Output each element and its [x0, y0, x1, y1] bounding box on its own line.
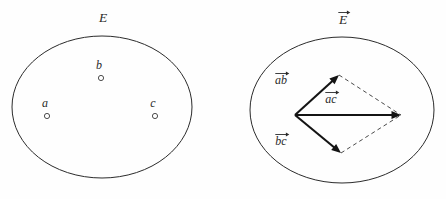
point-label-a: a	[42, 96, 48, 110]
dashed-edge-ab-to-ac	[339, 75, 401, 115]
vector-ab-label-group: ab	[275, 71, 289, 87]
vector-label-bc: bc	[275, 134, 287, 148]
vector-bc-shaft	[295, 115, 336, 149]
point-marker-b	[98, 75, 103, 80]
vector-bc-label-group: bc	[275, 132, 289, 148]
vector-ac: ac	[295, 90, 401, 119]
point-marker-a	[44, 113, 49, 118]
vector-set-label-E: E	[338, 12, 348, 27]
point-label-b: b	[96, 58, 102, 72]
set-label-E: E	[98, 10, 108, 25]
point-marker-c	[152, 113, 157, 118]
set-diagram-panel: E a b c	[12, 10, 192, 178]
vector-set-label-group: E	[338, 10, 350, 27]
vector-set-ellipse-outline	[250, 37, 434, 183]
vector-diagram-panel: E ab ac	[250, 10, 434, 183]
set-point-b: b	[96, 58, 104, 81]
vector-ac-label-group: ac	[325, 90, 339, 106]
vector-label-ac: ac	[325, 92, 337, 106]
set-point-c: c	[150, 96, 157, 119]
diagram-canvas: E a b c E	[0, 0, 446, 199]
point-label-c: c	[150, 96, 156, 110]
vector-label-ab: ab	[275, 73, 287, 87]
figure-container: E a b c E	[0, 0, 446, 199]
set-point-a: a	[42, 96, 50, 119]
vector-bc: bc	[275, 115, 341, 153]
dashed-edge-bc-to-ac	[341, 115, 401, 153]
set-ellipse-outline	[12, 36, 192, 178]
